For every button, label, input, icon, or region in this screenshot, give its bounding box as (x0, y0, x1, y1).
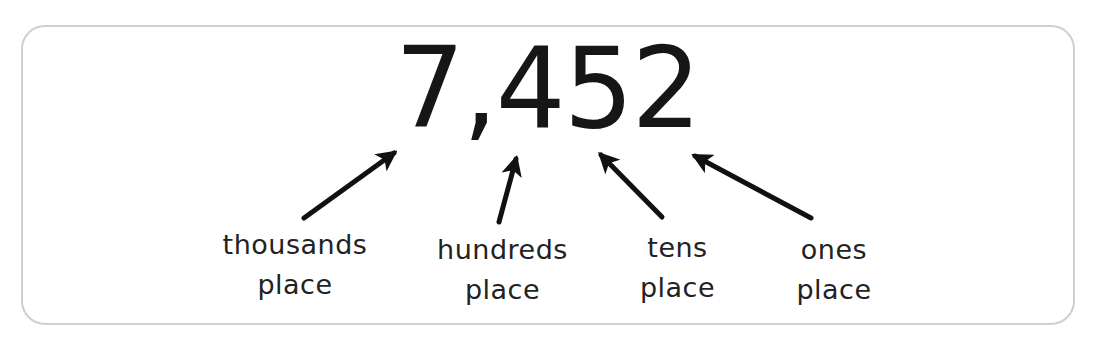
label-hundreds-place: hundreds place (415, 230, 590, 310)
tens-arrow-icon (601, 155, 662, 217)
label-ones-place: ones place (775, 230, 893, 310)
hundreds-arrow-icon (499, 159, 516, 222)
label-ones-line2: place (775, 270, 893, 310)
label-tens-line2: place (620, 268, 735, 308)
label-hundreds-line1: hundreds (415, 230, 590, 270)
label-tens-place: tens place (620, 228, 735, 308)
ones-arrow-icon (695, 156, 811, 218)
label-thousands-line2: place (200, 265, 390, 305)
label-thousands-line1: thousands (200, 225, 390, 265)
thousands-arrow-icon (304, 153, 394, 218)
label-ones-line1: ones (775, 230, 893, 270)
label-thousands-place: thousands place (200, 225, 390, 305)
label-hundreds-line2: place (415, 270, 590, 310)
label-tens-line1: tens (620, 228, 735, 268)
